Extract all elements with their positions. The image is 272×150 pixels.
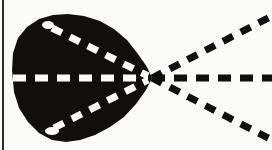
ray-diagram-svg [0, 0, 272, 150]
figure-container [0, 0, 272, 150]
